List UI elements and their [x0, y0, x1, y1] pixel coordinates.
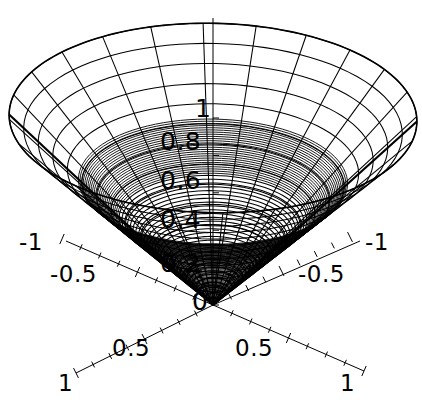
y-tick-label-0.5-right: 0.5 — [235, 337, 273, 360]
z-tick-label-0.6: 0.6 — [160, 168, 201, 193]
z-tick-label-0.2: 0.2 — [160, 251, 201, 276]
z-tick-label-0.8: 0.8 — [160, 129, 201, 154]
x-tick-label-neg0.5-right: -0.5 — [298, 263, 345, 286]
z-tick-label-0.4: 0.4 — [160, 207, 201, 232]
cone-surface-plot — [0, 0, 422, 405]
x-tick-label-0.5-left: 0.5 — [112, 337, 150, 360]
plot-canvas: 1 0.8 0.6 0.4 0.2 0 -1 -0.5 0.5 1 -1 -0.… — [0, 0, 422, 405]
z-tick-label-1: 1 — [195, 96, 211, 121]
y-tick-label-neg1: -1 — [19, 231, 43, 254]
x-tick-label-1-left: 1 — [58, 372, 73, 395]
axis-lines — [66, 18, 364, 373]
y-tick-label-1-right: 1 — [340, 372, 355, 395]
z-tick-label-0: 0 — [192, 289, 208, 314]
y-tick-label-neg0.5: -0.5 — [50, 263, 97, 286]
x-tick-label-neg1-right: -1 — [365, 231, 389, 254]
